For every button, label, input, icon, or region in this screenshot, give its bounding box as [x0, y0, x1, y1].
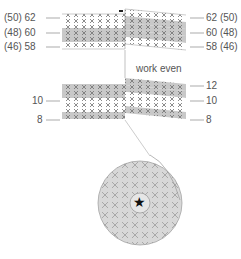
- top-right-rows: [119, 9, 186, 50]
- label-left-10: 10: [32, 96, 43, 106]
- stitch-chart-graphic: [0, 0, 241, 259]
- label-right-58: 58 (46): [206, 42, 238, 52]
- label-right-12: 12: [206, 81, 217, 91]
- label-left-58: (46) 58: [4, 42, 36, 52]
- bottom-right-rows: [125, 50, 186, 119]
- label-left-8: 8: [37, 115, 43, 125]
- label-right-62: 62 (50): [206, 13, 238, 23]
- work-even-note: work even: [136, 63, 182, 74]
- bottom-left-rows: [62, 84, 125, 119]
- top-left-rows: [62, 14, 125, 49]
- star-icon: ★: [133, 195, 146, 209]
- label-right-10: 10: [206, 96, 217, 106]
- label-right-8: 8: [206, 115, 212, 125]
- label-right-60: 60 (48): [206, 28, 238, 38]
- label-left-62: (50) 62: [4, 13, 36, 23]
- label-left-60: (48) 60: [4, 28, 36, 38]
